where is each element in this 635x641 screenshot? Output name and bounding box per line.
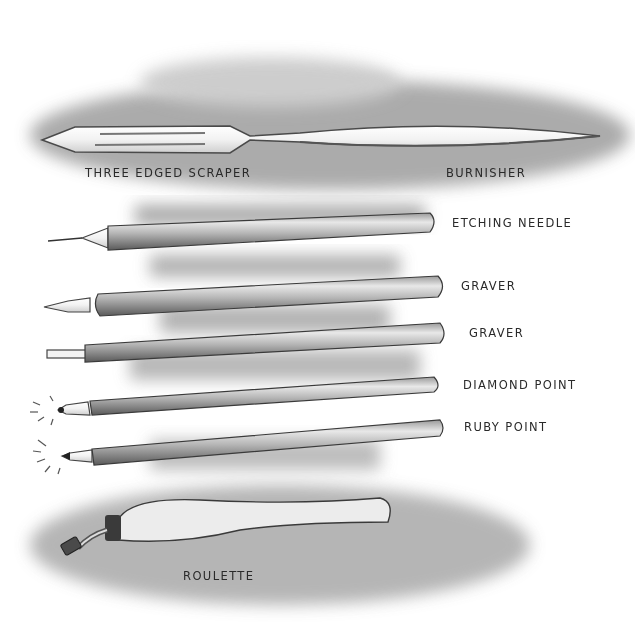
label-ruby-point: RUBY POINT — [464, 420, 547, 434]
label-diamond-point: DIAMOND POINT — [463, 378, 576, 392]
label-graver-2: GRAVER — [469, 326, 524, 340]
etching-tools-illustration — [0, 0, 635, 641]
label-etching-needle: ETCHING NEEDLE — [452, 216, 572, 230]
label-three-edged-scraper: THREE EDGED SCRAPER — [85, 166, 251, 180]
label-burnisher: BURNISHER — [446, 166, 526, 180]
label-graver-1: GRAVER — [461, 279, 516, 293]
label-roulette: ROULETTE — [183, 569, 254, 583]
